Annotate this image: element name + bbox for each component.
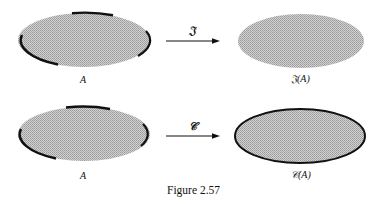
arrow-closure <box>166 133 220 139</box>
arrow-interior <box>166 38 220 44</box>
label-set-a-top: A <box>80 74 86 85</box>
label-interior-operator: 𝔍 <box>189 24 196 37</box>
interior-of-a <box>238 14 364 68</box>
label-interior-of-a: 𝔍(A) <box>291 73 310 85</box>
set-a-bottom <box>18 107 150 161</box>
label-set-a-bottom: A <box>80 170 86 181</box>
label-closure-operator: 𝒞 <box>189 120 197 133</box>
closure-of-a <box>235 109 365 163</box>
figure-caption: Figure 2.57 <box>167 184 220 196</box>
label-closure-of-a: 𝒞(A) <box>291 169 311 181</box>
set-a-top <box>18 13 150 67</box>
